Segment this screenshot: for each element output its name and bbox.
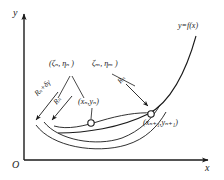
point-n1-label: (xₙ₊₁,yₙ₊₁) — [143, 119, 178, 127]
arrow-rn-right — [126, 84, 148, 106]
zeta-m-eta-m-label: ζₘ, ηₘ ) — [92, 60, 118, 68]
y-axis-label: y — [13, 8, 17, 18]
function-curve-label: y=f(x) — [178, 22, 198, 30]
leader-zeta-n-b — [72, 76, 84, 98]
x-axis-label: x — [205, 163, 209, 173]
origin-label: O — [12, 160, 19, 170]
arc-through-points — [54, 113, 152, 128]
leader-point-n — [91, 108, 92, 119]
leader-zeta-n-a — [58, 76, 70, 98]
figure-container: y x O y=f(x) (ζₙ, ηₙ ) ζₘ, ηₘ ) (xₙ,yₙ) … — [0, 0, 224, 180]
point-n-marker — [88, 120, 94, 126]
point-n1-marker — [148, 111, 154, 117]
point-n-label: (xₙ,yₙ) — [78, 98, 99, 106]
zeta-n-eta-n-label: (ζₙ, ηₙ ) — [49, 60, 74, 68]
